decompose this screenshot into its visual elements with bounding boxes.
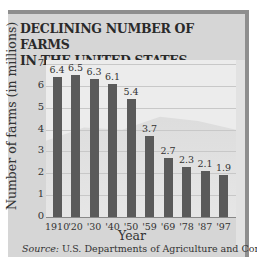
y-tick-label: 5 (36, 101, 44, 112)
bar (145, 136, 154, 217)
x-axis-line (46, 217, 236, 218)
x-axis-label: Year (118, 228, 146, 243)
bar (90, 79, 99, 217)
bar (71, 75, 80, 217)
bar (127, 99, 136, 217)
bar (108, 84, 117, 217)
bar (219, 175, 228, 217)
bar (201, 171, 210, 217)
y-axis-label: Number of farms (in millions) (4, 22, 19, 210)
y-tick-label: 0 (36, 210, 44, 221)
frame-sidebar (236, 60, 245, 250)
y-tick-label: 2 (36, 166, 44, 177)
source-label: Source: (22, 243, 59, 254)
bar-value-label: 6.1 (101, 71, 125, 82)
y-tick-label: 6 (36, 79, 44, 90)
source-note: Source: U.S. Departments of Agriculture … (22, 243, 257, 254)
bar-value-label: 3.7 (138, 123, 162, 134)
y-tick-label: 3 (36, 144, 44, 155)
bar (164, 158, 173, 217)
bar-value-label: 5.4 (119, 86, 143, 97)
x-tick-label: '97 (212, 221, 236, 232)
y-tick-label: 1 (36, 188, 44, 199)
bar (53, 77, 62, 217)
source-text: U.S. Departments of Agriculture and Comm… (59, 243, 257, 254)
bar (182, 167, 191, 217)
y-tick-label: 7 (36, 57, 44, 68)
y-tick-label: 4 (36, 123, 44, 134)
bar-value-label: 1.9 (212, 162, 236, 173)
title-line-1: DECLINING NUMBER OF FARMS (20, 21, 240, 53)
